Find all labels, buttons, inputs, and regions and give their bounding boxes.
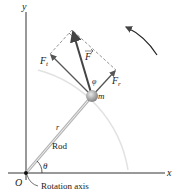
mass-ball bbox=[86, 90, 98, 102]
rod-highlight bbox=[26, 96, 92, 173]
rotation-direction-arrow bbox=[126, 27, 157, 55]
theta-angle-arc bbox=[37, 161, 42, 173]
y-axis-label: y bbox=[21, 1, 27, 12]
tangential-force-label: Ft bbox=[39, 55, 49, 68]
radius-label: r bbox=[56, 123, 60, 132]
x-axis-label: x bbox=[166, 167, 172, 178]
radial-force-label: Fr bbox=[111, 75, 121, 88]
force-label: F bbox=[84, 51, 92, 62]
torque-diagram: y x O m r Rod θ φ F Ft Fr Rotation axis bbox=[0, 0, 182, 196]
rod-label: Rod bbox=[52, 141, 68, 151]
mass-label: m bbox=[98, 91, 105, 101]
origin-label: O bbox=[15, 177, 22, 188]
rotation-axis-leader bbox=[27, 175, 38, 186]
rotation-axis-label: Rotation axis bbox=[41, 181, 89, 191]
phi-label: φ bbox=[92, 77, 97, 86]
theta-label: θ bbox=[43, 161, 48, 171]
origin-point bbox=[24, 171, 28, 175]
